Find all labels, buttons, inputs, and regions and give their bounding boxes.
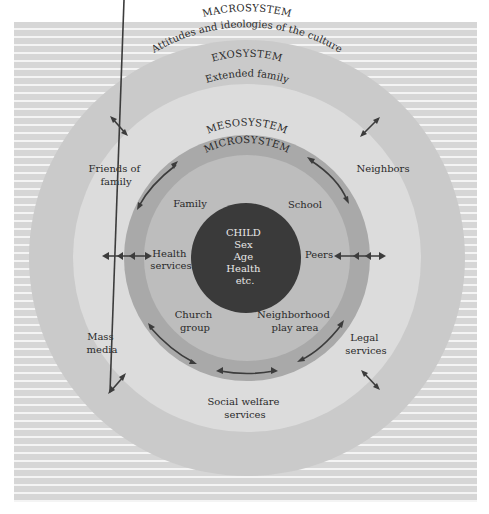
peers-label: Peers	[305, 249, 333, 260]
health-services-label: Health services	[150, 248, 191, 271]
neighbors-label: Neighbors	[356, 163, 409, 174]
ecological-systems-diagram: MACROSYSTEM Attitudes and ideologies of …	[0, 0, 489, 514]
family-label: Family	[173, 198, 207, 209]
macrosystem-label: MACROSYSTEM	[201, 2, 293, 19]
school-label: School	[288, 199, 322, 210]
